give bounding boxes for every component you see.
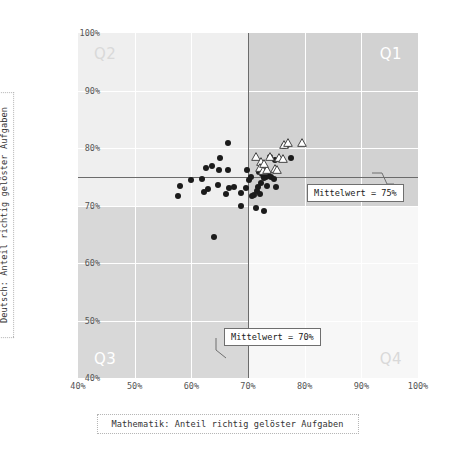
quadrant-label-q1: Q1 — [380, 45, 402, 63]
y-tick-label: 60% — [70, 258, 100, 268]
y-tick-label: 70% — [70, 201, 100, 211]
y-tick-label: 90% — [70, 86, 100, 96]
x-tick-label: 70% — [240, 381, 255, 391]
data-point-circle — [209, 163, 215, 169]
data-point-triangle — [283, 138, 293, 147]
data-point-circle — [215, 182, 221, 188]
data-point-circle — [223, 191, 229, 197]
y-tick-label: 100% — [70, 28, 100, 38]
quadrant-label-q3: Q3 — [94, 350, 116, 368]
data-point-circle — [217, 155, 223, 161]
data-point-triangle — [278, 154, 288, 163]
data-point-triangle — [297, 138, 307, 147]
x-tick-label: 60% — [184, 381, 199, 391]
data-point-circle — [203, 165, 209, 171]
data-point-circle — [264, 183, 270, 189]
data-point-triangle — [272, 165, 282, 174]
data-point-circle — [288, 155, 294, 161]
data-point-circle — [201, 189, 207, 195]
y-axis-title: Deutsch: Anteil richtig gelöster Aufgabe… — [0, 92, 14, 338]
y-tick-label: 80% — [70, 143, 100, 153]
callout-pointer-vertical — [214, 336, 236, 362]
data-point-circle — [271, 176, 277, 182]
quadrant-label-q2: Q2 — [94, 45, 116, 63]
data-point-circle — [211, 234, 217, 240]
data-point-circle — [243, 185, 249, 191]
data-point-circle — [244, 167, 250, 173]
data-point-circle — [225, 167, 231, 173]
data-point-triangle — [259, 159, 269, 168]
callout-mean-x: Mittelwert = 70% — [224, 328, 321, 346]
data-point-circle — [238, 203, 244, 209]
data-point-circle — [257, 191, 263, 197]
y-tick-label: 50% — [70, 316, 100, 326]
x-axis-title: Mathematik: Anteil richtig gelöster Aufg… — [96, 414, 358, 434]
chart-container: Q2 Q1 Q3 Q4 40%50%60%70%80%90%100% 40%50… — [0, 0, 455, 450]
data-point-circle — [273, 184, 279, 190]
x-tick-label: 100% — [408, 381, 428, 391]
data-point-circle — [261, 208, 267, 214]
callout-pointer-horizontal — [370, 171, 410, 193]
quadrant-label-q4: Q4 — [380, 350, 402, 368]
data-point-circle — [238, 190, 244, 196]
data-point-circle — [231, 184, 237, 190]
x-tick-label: 50% — [127, 381, 142, 391]
data-point-circle — [253, 205, 259, 211]
data-point-circle — [199, 176, 205, 182]
data-point-circle — [177, 183, 183, 189]
data-point-circle — [175, 193, 181, 199]
mean-line-vertical — [248, 33, 249, 378]
data-point-circle — [225, 140, 231, 146]
data-point-circle — [249, 193, 255, 199]
x-tick-label: 90% — [354, 381, 369, 391]
y-tick-label: 40% — [70, 373, 100, 383]
data-point-circle — [216, 167, 222, 173]
x-tick-label: 80% — [297, 381, 312, 391]
data-point-circle — [188, 177, 194, 183]
plot-area: Q2 Q1 Q3 Q4 — [78, 33, 418, 378]
data-point-circle — [246, 177, 252, 183]
